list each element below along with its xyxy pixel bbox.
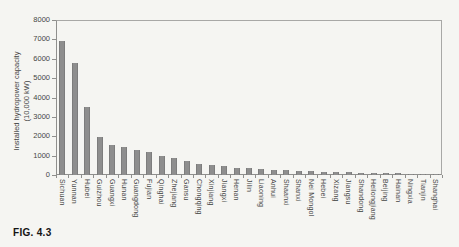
x-tick-mark [193,175,194,178]
x-tick-mark [205,175,206,178]
y-tick-label: 8000 [33,16,50,24]
x-tick-mark [118,175,119,178]
y-tick-label: 3000 [33,113,50,121]
x-tick-mark [268,175,269,178]
x-category-label: Anhui [270,179,277,198]
bar-yunnan [72,63,78,175]
y-axis-title: Installed hydropower capacity (10,000 kW… [12,26,31,176]
bar-zhejiang [171,158,177,175]
bar-xizang [333,172,339,175]
x-category-label: Tianjin [420,179,427,201]
x-tick-mark [56,175,57,178]
bar-hainan [395,173,401,175]
y-tick-mark [52,59,56,60]
y-tick-mark [52,39,56,40]
x-category-label: Hunan [121,179,128,201]
x-tick-mark [181,175,182,178]
x-tick-mark [81,175,82,178]
bar-xinjiang [209,165,215,175]
x-tick-mark [317,175,318,178]
x-tick-mark [342,175,343,178]
bar-chongqing [196,164,202,175]
bar-gansu [184,161,190,175]
bar-guangdong [134,150,140,175]
x-category-label: Hainan [395,179,402,202]
x-tick-mark [68,175,69,178]
x-category-label: Shandong [358,179,365,213]
x-category-label: Guangxi [109,179,116,206]
x-tick-mark [305,175,306,178]
x-tick-mark [230,175,231,178]
bar-hubei [84,107,90,175]
x-category-label: Jilin [246,179,253,192]
bar-qinghai [159,156,165,175]
x-tick-mark [380,175,381,178]
x-tick-mark [243,175,244,178]
x-tick-mark [168,175,169,178]
y-tick-mark [52,156,56,157]
bar-shandong [358,173,364,175]
x-category-label: Heilongjiang [370,179,377,220]
bar-hebei [321,172,327,175]
x-tick-mark [293,175,294,178]
x-tick-mark [218,175,219,178]
y-tick-mark [52,20,56,21]
hydropower-capacity-bar-chart: Installed hydropower capacity (10,000 kW… [0,0,459,247]
y-tick-label: 5000 [33,74,50,82]
book-page: Installed hydropower capacity (10,000 kW… [0,0,459,247]
x-category-label: Fujian [146,179,153,199]
x-category-label: Guangdong [133,179,140,217]
bar-tianjin [420,174,426,175]
x-category-label: Liaoning [258,179,265,207]
figure-caption: FIG. 4.3 [13,227,52,238]
x-category-label: Shanghai [432,179,439,210]
x-tick-mark [255,175,256,178]
x-category-label: Gansu [183,179,190,201]
x-category-label: Henan [233,179,240,201]
x-category-label: Xinjiang [208,179,215,206]
bar-guizhou [97,137,103,175]
x-tick-mark [367,175,368,178]
y-tick-mark [52,98,56,99]
x-category-label: Beijing [382,179,389,201]
bar-hunan [121,147,127,175]
bar-ningxia [408,174,414,175]
x-tick-mark [442,175,443,178]
bar-nei-mongol [308,171,314,175]
x-tick-mark [392,175,393,178]
x-tick-mark [93,175,94,178]
x-category-label: Hebei [320,179,327,198]
bar-shanxi [296,171,302,175]
bar-jilin [246,168,252,175]
x-category-label: Ningxia [407,179,414,204]
x-category-label: Guizhou [96,179,103,206]
bar-shaanxi [283,170,289,175]
x-tick-mark [143,175,144,178]
y-tick-label: 0 [46,171,50,179]
x-category-label: Yunnan [71,179,78,204]
y-axis-title-line1: Installed hydropower capacity [12,26,22,176]
y-tick-mark [52,136,56,137]
bar-jiangxi [221,166,227,175]
bar-henan [234,168,240,175]
x-tick-mark [430,175,431,178]
bar-anhui [271,170,277,175]
x-category-label: Xizang [333,179,340,202]
x-category-label: Shaanxi [283,179,290,206]
bar-fujian [146,152,152,175]
y-tick-label: 6000 [33,55,50,63]
y-tick-mark [52,117,56,118]
bar-sichuan [59,41,65,175]
x-category-label: Hubei [84,179,91,198]
y-axis-title-line2: (10,000 kW) [21,26,31,176]
y-tick-label: 1000 [33,152,50,160]
x-tick-mark [405,175,406,178]
x-category-label: Nei Mongol [308,179,315,216]
x-category-label: Jiangxi [221,179,228,202]
x-tick-mark [355,175,356,178]
x-tick-mark [156,175,157,178]
bar-guangxi [109,145,115,175]
bar-heilongjiang [371,173,377,175]
y-tick-label: 7000 [33,35,50,43]
x-tick-mark [131,175,132,178]
